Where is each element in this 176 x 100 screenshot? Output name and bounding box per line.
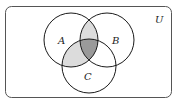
venn-diagram: A B C U bbox=[0, 0, 176, 100]
set-a-label: A bbox=[57, 35, 65, 46]
universe-label: U bbox=[155, 14, 164, 25]
set-c-label: C bbox=[84, 71, 92, 82]
set-b-label: B bbox=[111, 35, 119, 46]
